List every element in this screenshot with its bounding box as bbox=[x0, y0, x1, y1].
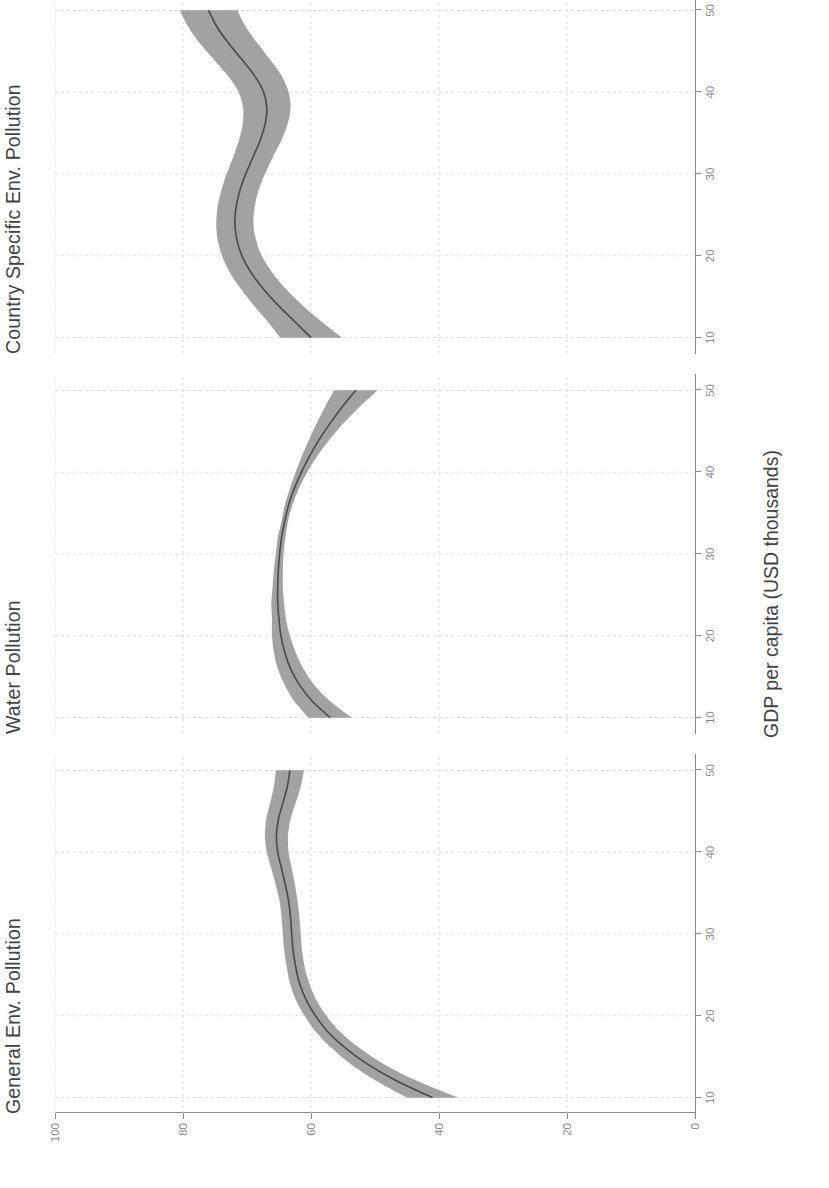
x-axis-tick bbox=[695, 1097, 701, 1098]
x-axis-tick-label: 40 bbox=[704, 86, 716, 99]
x-axis-tick bbox=[695, 635, 701, 636]
x-axis-tick-label: 10 bbox=[704, 1091, 716, 1104]
x-axis-tick-label: 30 bbox=[704, 548, 716, 561]
x-axis-tick-label: 10 bbox=[704, 331, 716, 344]
x-axis-tick-label: 30 bbox=[704, 928, 716, 941]
panel-general-env-pollution: General Env. Pollution bbox=[0, 754, 760, 1114]
panel-country-specific-env-pollution: Country Specific Env. Pollution bbox=[0, 0, 760, 354]
x-axis-tick-label: 50 bbox=[704, 384, 716, 397]
chart-figure: 020406080100 General Env. Pollution Wate… bbox=[0, 0, 829, 1188]
x-axis-tick-label: 50 bbox=[704, 4, 716, 17]
x-axis-tick bbox=[695, 471, 701, 472]
x-axis-tick-label: 10 bbox=[704, 711, 716, 724]
x-axis-spine bbox=[695, 374, 696, 734]
x-axis-spine bbox=[695, 0, 696, 354]
x-axis-tick bbox=[695, 553, 701, 554]
x-axis-group: 1020304050 bbox=[695, 0, 735, 354]
x-axis-tick bbox=[695, 1015, 701, 1016]
x-axis-tick bbox=[695, 173, 701, 174]
panel-title: Water Pollution bbox=[2, 374, 25, 734]
panels-row: General Env. Pollution Water Pollution C… bbox=[0, 0, 760, 1188]
x-axis-tick-label: 20 bbox=[704, 249, 716, 262]
x-axis-tick bbox=[695, 337, 701, 338]
x-axis-tick bbox=[695, 255, 701, 256]
x-axis-tick-label: 40 bbox=[704, 466, 716, 479]
confidence-band bbox=[180, 10, 342, 337]
panel-plot-svg bbox=[55, 0, 695, 354]
panel-plot-svg bbox=[55, 754, 695, 1114]
x-axis-title: GDP per capita (USD thousands) bbox=[760, 0, 783, 1188]
x-axis-tick bbox=[695, 933, 701, 934]
plot-area bbox=[55, 374, 695, 734]
plot-area bbox=[55, 0, 695, 354]
x-axis-tick bbox=[695, 389, 701, 390]
panel-water-pollution: Water Pollution bbox=[0, 374, 760, 734]
x-axis-tick-label: 50 bbox=[704, 764, 716, 777]
plot-area bbox=[55, 754, 695, 1114]
x-axis-tick bbox=[695, 851, 701, 852]
x-axis-tick bbox=[695, 91, 701, 92]
x-axis-tick bbox=[695, 769, 701, 770]
panel-title: General Env. Pollution bbox=[2, 754, 25, 1114]
x-axis-group: 1020304050 bbox=[695, 754, 735, 1114]
rotated-figure-container: 020406080100 General Env. Pollution Wate… bbox=[0, 0, 829, 1188]
x-axis-tick-label: 20 bbox=[704, 1009, 716, 1022]
x-axis-tick-label: 30 bbox=[704, 168, 716, 181]
x-axis-tick bbox=[695, 9, 701, 10]
x-axis-tick-label: 20 bbox=[704, 629, 716, 642]
x-axis-tick bbox=[695, 717, 701, 718]
x-axis-group: 1020304050 bbox=[695, 374, 735, 734]
x-axis-spine bbox=[695, 754, 696, 1114]
x-axis: 1020304050 1020304050 1020304050 bbox=[695, 14, 735, 1114]
panel-plot-svg bbox=[55, 374, 695, 734]
panel-title: Country Specific Env. Pollution bbox=[2, 0, 25, 354]
x-axis-tick-label: 40 bbox=[704, 846, 716, 859]
